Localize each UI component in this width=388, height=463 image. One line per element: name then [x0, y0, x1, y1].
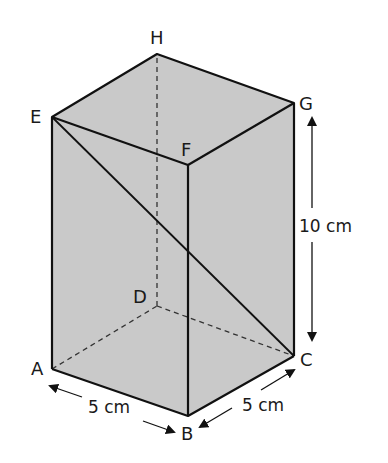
vertex-label-g: G	[299, 93, 313, 114]
vertex-label-a: A	[31, 358, 44, 379]
bc-length-label: 5 cm	[242, 395, 284, 415]
vertex-label-e: E	[30, 106, 41, 127]
vertex-label-d: D	[133, 286, 147, 307]
vertex-label-h: H	[150, 27, 164, 48]
vertex-label-b: B	[181, 423, 193, 444]
height-label: 10 cm	[299, 216, 352, 236]
cuboid-diagram: H E G F D A C B 10 cm 5 cm 5 cm	[0, 0, 388, 463]
cuboid-fill	[52, 54, 294, 416]
vertex-label-f: F	[181, 139, 191, 160]
vertex-label-c: C	[300, 349, 313, 370]
ab-length-label: 5 cm	[88, 397, 130, 417]
